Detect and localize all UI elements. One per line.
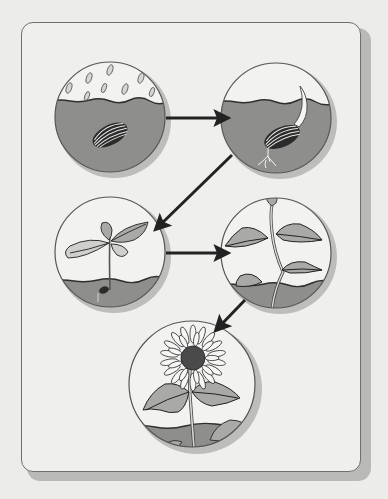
life-cycle-diagram: Seed planted in soil with rain falling [0, 0, 388, 499]
stage-seed: Seed planted in soil with rain falling [50, 55, 171, 180]
stage-seedling: Seedling with first leaves [50, 190, 171, 320]
stage-flowering: Mature sunflower in bloom [125, 315, 265, 460]
arrow-young-plant-to-flowering [217, 300, 245, 329]
stage-germination: Seed germinates: shoot and root emerge [215, 55, 340, 180]
stage-young-plant: Young plant with bud [215, 190, 340, 320]
arrow-germination-to-seedling [157, 155, 232, 228]
